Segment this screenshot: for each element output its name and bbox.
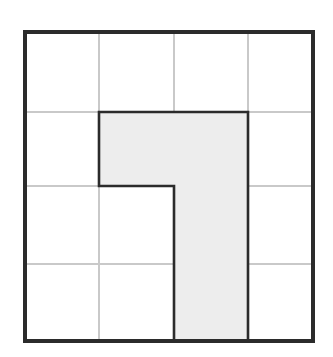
figure-canvas [0,0,333,357]
geometry-figure [0,0,333,357]
